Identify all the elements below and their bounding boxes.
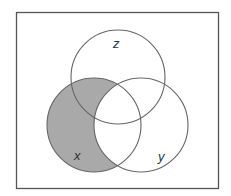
label-z: z xyxy=(112,36,120,51)
venn-diagram: z x y xyxy=(0,0,231,196)
label-x: x xyxy=(73,148,81,163)
